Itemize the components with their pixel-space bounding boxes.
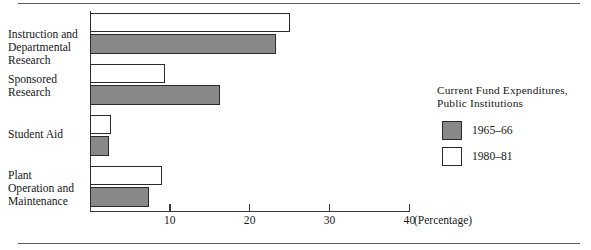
category-label-plant-operation: Plant Operation and Maintenance: [8, 169, 86, 209]
x-tick-40: [409, 204, 410, 212]
legend-item-1965-66: 1965–66: [442, 121, 513, 140]
legend-title: Current Fund Expenditures, Public Instit…: [437, 84, 587, 111]
x-tick-10: [169, 204, 170, 212]
x-ticklabel-30: 30: [324, 214, 336, 226]
bar-instruction-1980-81: [90, 13, 290, 32]
category-label-line: Sponsored Research: [8, 73, 86, 99]
bar-sponsored-1980-81: [90, 64, 165, 83]
bar-sponsored-1965-66: [90, 85, 220, 105]
bar-plant-operation-1965-66: [90, 187, 149, 207]
x-tick-20: [249, 204, 250, 212]
legend-swatch-gray-icon: [442, 121, 462, 140]
category-label-student-aid: Student Aid: [8, 128, 86, 141]
legend: Current Fund Expenditures, Public Instit…: [437, 84, 587, 111]
legend-item-1980-81: 1980–81: [442, 147, 513, 166]
figure: 10 20 30 40 (Percentage) Instruction and…: [0, 0, 591, 250]
category-label-instruction: Instruction and Departmental Research: [8, 28, 86, 68]
bar-instruction-1965-66: [90, 34, 276, 54]
bar-student-aid-1980-81: [90, 115, 111, 134]
category-label-line: Plant Operation and Maintenance: [8, 169, 86, 209]
category-label-line: Student Aid: [8, 128, 86, 141]
x-ticklabel-10: 10: [164, 214, 176, 226]
legend-label-1980-81: 1980–81: [472, 150, 513, 163]
x-axis-unit-label: (Percentage): [414, 214, 472, 226]
x-tick-30: [329, 204, 330, 212]
category-label-line: Instruction and Departmental Research: [8, 28, 86, 68]
legend-label-1965-66: 1965–66: [472, 124, 513, 137]
legend-swatch-white-icon: [442, 147, 462, 166]
category-label-sponsored: Sponsored Research: [8, 73, 86, 99]
bar-student-aid-1965-66: [90, 136, 109, 156]
x-ticklabel-20: 20: [244, 214, 256, 226]
bar-plant-operation-1980-81: [90, 166, 162, 185]
